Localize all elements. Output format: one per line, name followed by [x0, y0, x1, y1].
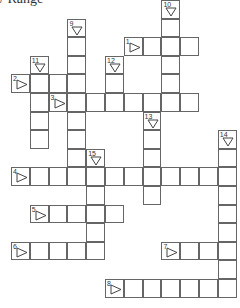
answer-cell[interactable]	[161, 167, 180, 186]
answer-cell[interactable]	[180, 37, 199, 56]
clue-start-cell-9[interactable]: 9	[67, 19, 86, 38]
clue-start-cell-10[interactable]: 10	[161, 0, 180, 19]
answer-cell[interactable]	[161, 279, 180, 298]
answer-cell[interactable]	[67, 167, 86, 186]
answer-cell[interactable]	[180, 93, 199, 112]
answer-cell[interactable]	[218, 205, 237, 224]
clue-start-cell-5[interactable]: 5	[30, 205, 49, 224]
answer-cell[interactable]	[30, 130, 49, 149]
answer-cell[interactable]	[49, 242, 68, 261]
answer-cell[interactable]	[218, 167, 237, 186]
answer-cell[interactable]	[67, 112, 86, 131]
down-arrow-icon	[165, 7, 177, 17]
clue-start-cell-14[interactable]: 14	[218, 130, 237, 149]
answer-cell[interactable]	[124, 279, 143, 298]
answer-cell[interactable]	[67, 37, 86, 56]
answer-cell[interactable]	[199, 167, 218, 186]
answer-cell[interactable]	[218, 279, 237, 298]
clue-start-cell-13[interactable]: 13	[143, 112, 162, 131]
down-arrow-icon	[222, 137, 234, 147]
down-arrow-icon	[90, 156, 102, 166]
right-arrow-icon	[54, 98, 66, 109]
right-arrow-icon	[129, 42, 141, 53]
answer-cell[interactable]	[67, 74, 86, 93]
clue-start-cell-7[interactable]: 7	[161, 242, 180, 261]
crossword-grid: 123456789101112131415	[0, 0, 240, 308]
right-arrow-icon	[110, 284, 122, 295]
answer-cell[interactable]	[218, 186, 237, 205]
right-arrow-icon	[16, 247, 28, 258]
right-arrow-icon	[35, 210, 47, 221]
down-arrow-icon	[71, 26, 83, 36]
down-arrow-icon	[34, 63, 46, 73]
clue-start-cell-15[interactable]: 15	[86, 149, 105, 168]
answer-cell[interactable]	[30, 242, 49, 261]
clue-start-cell-11[interactable]: 11	[30, 56, 49, 75]
answer-cell[interactable]	[143, 130, 162, 149]
clue-start-cell-8[interactable]: 8	[105, 279, 124, 298]
answer-cell[interactable]	[105, 74, 124, 93]
answer-cell[interactable]	[218, 260, 237, 279]
answer-cell[interactable]	[49, 205, 68, 224]
answer-cell[interactable]	[67, 56, 86, 75]
answer-cell[interactable]	[30, 74, 49, 93]
answer-cell[interactable]	[124, 167, 143, 186]
clue-start-cell-4[interactable]: 4	[11, 167, 30, 186]
answer-cell[interactable]	[161, 93, 180, 112]
answer-cell[interactable]	[161, 74, 180, 93]
right-arrow-icon	[16, 79, 28, 90]
clue-start-cell-3[interactable]: 3	[49, 93, 68, 112]
answer-cell[interactable]	[199, 242, 218, 261]
answer-cell[interactable]	[143, 37, 162, 56]
answer-cell[interactable]	[86, 167, 105, 186]
answer-cell[interactable]	[105, 205, 124, 224]
answer-cell[interactable]	[180, 279, 199, 298]
right-arrow-icon	[16, 172, 28, 183]
answer-cell[interactable]	[143, 279, 162, 298]
answer-cell[interactable]	[143, 93, 162, 112]
down-arrow-icon	[147, 119, 159, 129]
answer-cell[interactable]	[180, 167, 199, 186]
answer-cell[interactable]	[180, 242, 199, 261]
answer-cell[interactable]	[67, 205, 86, 224]
answer-cell[interactable]	[199, 279, 218, 298]
answer-cell[interactable]	[161, 19, 180, 38]
clue-start-cell-12[interactable]: 12	[105, 56, 124, 75]
answer-cell[interactable]	[86, 186, 105, 205]
clue-start-cell-1[interactable]: 1	[124, 37, 143, 56]
answer-cell[interactable]	[161, 37, 180, 56]
answer-cell[interactable]	[67, 130, 86, 149]
answer-cell[interactable]	[218, 242, 237, 261]
answer-cell[interactable]	[105, 93, 124, 112]
answer-cell[interactable]	[86, 242, 105, 261]
answer-cell[interactable]	[86, 93, 105, 112]
down-arrow-icon	[109, 63, 121, 73]
answer-cell[interactable]	[86, 223, 105, 242]
answer-cell[interactable]	[143, 149, 162, 168]
clue-start-cell-2[interactable]: 2	[11, 74, 30, 93]
answer-cell[interactable]	[218, 149, 237, 168]
answer-cell[interactable]	[105, 167, 124, 186]
answer-cell[interactable]	[143, 167, 162, 186]
answer-cell[interactable]	[124, 93, 143, 112]
answer-cell[interactable]	[86, 205, 105, 224]
answer-cell[interactable]	[67, 93, 86, 112]
answer-cell[interactable]	[67, 149, 86, 168]
answer-cell[interactable]	[49, 74, 68, 93]
answer-cell[interactable]	[143, 186, 162, 205]
answer-cell[interactable]	[49, 167, 68, 186]
answer-cell[interactable]	[30, 93, 49, 112]
right-arrow-icon	[166, 247, 178, 258]
answer-cell[interactable]	[67, 242, 86, 261]
answer-cell[interactable]	[30, 167, 49, 186]
answer-cell[interactable]	[161, 56, 180, 75]
answer-cell[interactable]	[218, 223, 237, 242]
clue-start-cell-6[interactable]: 6	[11, 242, 30, 261]
answer-cell[interactable]	[30, 112, 49, 131]
